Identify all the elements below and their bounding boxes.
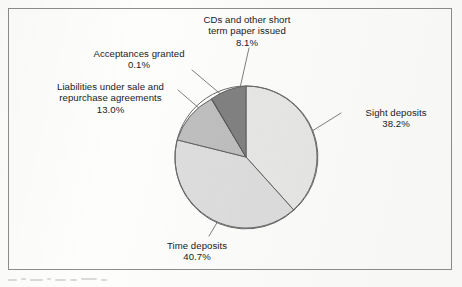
- slice-label-time-line1: Time deposits: [141, 240, 253, 251]
- leader-line-cds: [240, 48, 249, 88]
- slice-label-sight-line1: Sight deposits: [344, 107, 448, 118]
- slice-label-liabilities-percent: 13.0%: [25, 104, 196, 115]
- slice-label-liabilities: Liabilities under sale and repurchase ag…: [25, 81, 196, 115]
- slice-label-liabilities-line2: repurchase agreements: [25, 92, 196, 103]
- leader-line-acceptances: [192, 70, 224, 97]
- slice-label-sight-percent: 38.2%: [344, 118, 448, 129]
- slice-label-cds: CDs and other short term paper issued 8.…: [179, 14, 315, 48]
- slice-label-acceptances-percent: 0.1%: [65, 59, 213, 70]
- pie-chart-figure: CDs and other short term paper issued 8.…: [0, 0, 462, 287]
- slice-label-liabilities-line1: Liabilities under sale and: [25, 81, 196, 92]
- slice-label-cds-line1: CDs and other short: [179, 14, 315, 25]
- slice-label-time: Time deposits 40.7%: [141, 240, 253, 263]
- slice-label-cds-line2: term paper issued: [179, 25, 315, 36]
- slice-label-sight: Sight deposits 38.2%: [344, 107, 448, 130]
- slice-label-acceptances: Acceptances granted 0.1%: [65, 48, 213, 71]
- leader-line-sight: [309, 113, 341, 133]
- slice-label-time-percent: 40.7%: [141, 251, 253, 262]
- slice-label-acceptances-line1: Acceptances granted: [65, 48, 213, 59]
- slice-label-cds-percent: 8.1%: [179, 37, 315, 48]
